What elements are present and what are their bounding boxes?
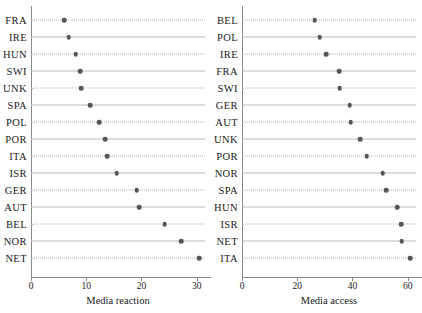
x-tick-label: 20 bbox=[137, 281, 147, 291]
category-label-unk: UNK bbox=[214, 134, 238, 145]
x-tick-label: 10 bbox=[81, 281, 91, 291]
x-axis-line bbox=[31, 277, 211, 278]
x-tick-label: 60 bbox=[403, 281, 413, 291]
category-label-por: POR bbox=[5, 134, 27, 145]
x-tick-label: 0 bbox=[240, 281, 245, 291]
data-point-por bbox=[103, 137, 108, 142]
category-label-aut: AUT bbox=[215, 117, 238, 128]
category-label-pol: POL bbox=[6, 117, 27, 128]
data-point-ger bbox=[347, 103, 352, 108]
gridline-row bbox=[242, 190, 416, 191]
data-point-ire bbox=[324, 52, 329, 57]
data-point-aut bbox=[137, 205, 142, 210]
category-label-swi: SWI bbox=[7, 66, 27, 77]
x-axis-title: Media access bbox=[301, 295, 357, 306]
category-label-nor: NOR bbox=[4, 236, 27, 247]
gridline-row bbox=[31, 54, 205, 55]
data-point-hun bbox=[73, 52, 78, 57]
data-point-swi bbox=[78, 69, 83, 74]
x-tick-label: 0 bbox=[29, 281, 34, 291]
data-point-net bbox=[197, 256, 202, 261]
gridline-row bbox=[31, 207, 205, 208]
x-tick-label: 40 bbox=[348, 281, 358, 291]
x-axis-title: Media reaction bbox=[86, 295, 149, 306]
gridline-row bbox=[31, 258, 205, 259]
category-label-spa: SPA bbox=[8, 100, 28, 111]
category-label-ger: GER bbox=[5, 185, 27, 196]
gridline-row bbox=[242, 105, 416, 106]
panel-media-reaction: FRAIREHUNSWIUNKSPAPOLPORITAISRGERAUTBELN… bbox=[0, 0, 210, 313]
category-label-aut: AUT bbox=[4, 202, 27, 213]
gridline-row bbox=[31, 20, 205, 21]
data-point-nor bbox=[179, 239, 184, 244]
data-point-ita bbox=[105, 154, 110, 159]
gridline-row bbox=[31, 37, 205, 38]
y-axis-line bbox=[31, 6, 32, 277]
data-point-bel bbox=[312, 18, 317, 23]
category-label-ita: ITA bbox=[9, 151, 27, 162]
data-point-unk bbox=[79, 86, 84, 91]
data-point-ita bbox=[408, 256, 413, 261]
gridline-row bbox=[242, 207, 416, 208]
gridline-row bbox=[31, 190, 205, 191]
category-label-bel: BEL bbox=[217, 15, 238, 26]
gridline-row bbox=[242, 71, 416, 72]
data-point-spa bbox=[88, 103, 93, 108]
category-label-unk: UNK bbox=[3, 83, 27, 94]
y-axis-line bbox=[242, 6, 243, 277]
data-point-net bbox=[399, 239, 404, 244]
gridline-row bbox=[31, 88, 205, 89]
category-label-pol: POL bbox=[217, 32, 238, 43]
x-tick-label: 30 bbox=[192, 281, 202, 291]
gridline-row bbox=[242, 37, 416, 38]
gridline-row bbox=[242, 139, 416, 140]
category-label-ita: ITA bbox=[220, 253, 238, 264]
gridline-row bbox=[31, 139, 205, 140]
data-point-ire bbox=[66, 35, 71, 40]
gridline-row bbox=[242, 88, 416, 89]
data-point-por bbox=[365, 154, 370, 159]
category-label-isr: ISR bbox=[220, 219, 238, 230]
data-point-nor bbox=[381, 171, 386, 176]
category-label-nor: NOR bbox=[215, 168, 238, 179]
category-label-spa: SPA bbox=[219, 185, 239, 196]
data-point-ger bbox=[134, 188, 139, 193]
gridline-row bbox=[242, 224, 416, 225]
plot-area-right: BELPOLIREFRASWIGERAUTUNKPORNORSPAHUNISRN… bbox=[210, 0, 420, 313]
category-label-isr: ISR bbox=[9, 168, 27, 179]
category-label-fra: FRA bbox=[216, 66, 238, 77]
x-tick-label: 20 bbox=[292, 281, 302, 291]
gridline-row bbox=[31, 71, 205, 72]
gridline-row bbox=[242, 156, 416, 157]
data-point-unk bbox=[358, 137, 363, 142]
category-label-ire: IRE bbox=[220, 49, 238, 60]
gridline-row bbox=[31, 156, 205, 157]
category-label-hun: HUN bbox=[214, 202, 238, 213]
panel-media-access: BELPOLIREFRASWIGERAUTUNKPORNORSPAHUNISRN… bbox=[210, 0, 420, 313]
data-point-pol bbox=[97, 120, 102, 125]
plot-area-left: FRAIREHUNSWIUNKSPAPOLPORITAISRGERAUTBELN… bbox=[0, 0, 210, 313]
category-label-net: NET bbox=[216, 236, 238, 247]
gridline-row bbox=[31, 122, 205, 123]
gridline-row bbox=[31, 105, 205, 106]
data-point-swi bbox=[337, 86, 342, 91]
category-label-bel: BEL bbox=[6, 219, 27, 230]
data-point-fra bbox=[62, 18, 67, 23]
category-label-fra: FRA bbox=[5, 15, 27, 26]
data-point-pol bbox=[317, 35, 322, 40]
data-point-isr bbox=[114, 171, 119, 176]
category-label-ger: GER bbox=[216, 100, 238, 111]
data-point-fra bbox=[337, 69, 342, 74]
category-label-por: POR bbox=[216, 151, 238, 162]
gridline-row bbox=[31, 224, 205, 225]
gridline-row bbox=[242, 54, 416, 55]
gridline-row bbox=[242, 20, 416, 21]
data-point-bel bbox=[162, 222, 167, 227]
x-axis-line bbox=[242, 277, 422, 278]
data-point-isr bbox=[399, 222, 404, 227]
category-label-net: NET bbox=[5, 253, 27, 264]
gridline-row bbox=[242, 258, 416, 259]
gridline-row bbox=[242, 122, 416, 123]
data-point-aut bbox=[348, 120, 353, 125]
